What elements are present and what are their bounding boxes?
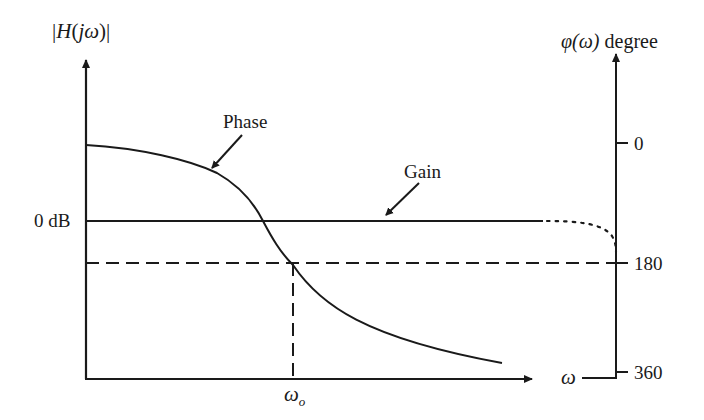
- tick-label-180: 180: [634, 254, 663, 273]
- j-omega-symbol: jω: [78, 19, 99, 43]
- bode-diagram: [0, 0, 704, 420]
- omega-symbol: ω: [284, 382, 299, 406]
- phase-annotation: Phase: [223, 112, 267, 131]
- tick-label-360: 360: [634, 363, 663, 382]
- h-symbol: H: [56, 19, 71, 43]
- phi-symbol: φ: [561, 30, 572, 52]
- omega-o-label: ωo: [284, 384, 305, 408]
- omega-axis-label: ω: [561, 367, 576, 388]
- zero-db-label: 0 dB: [34, 211, 70, 230]
- phase-arrow: [212, 135, 242, 168]
- gain-rolloff-dotted: [547, 221, 616, 252]
- left-axis-label: |H(jω)|: [52, 21, 110, 42]
- gain-annotation: Gain: [404, 162, 441, 181]
- abs-bar-right: )|: [99, 19, 110, 43]
- tick-label-0: 0: [634, 134, 644, 153]
- omega-subscript: o: [299, 394, 306, 409]
- right-axis-label: φ(ω) degree: [561, 31, 658, 51]
- gain-arrow: [386, 183, 419, 215]
- omega-arg: (ω): [572, 30, 599, 52]
- degree-unit: degree: [600, 30, 658, 52]
